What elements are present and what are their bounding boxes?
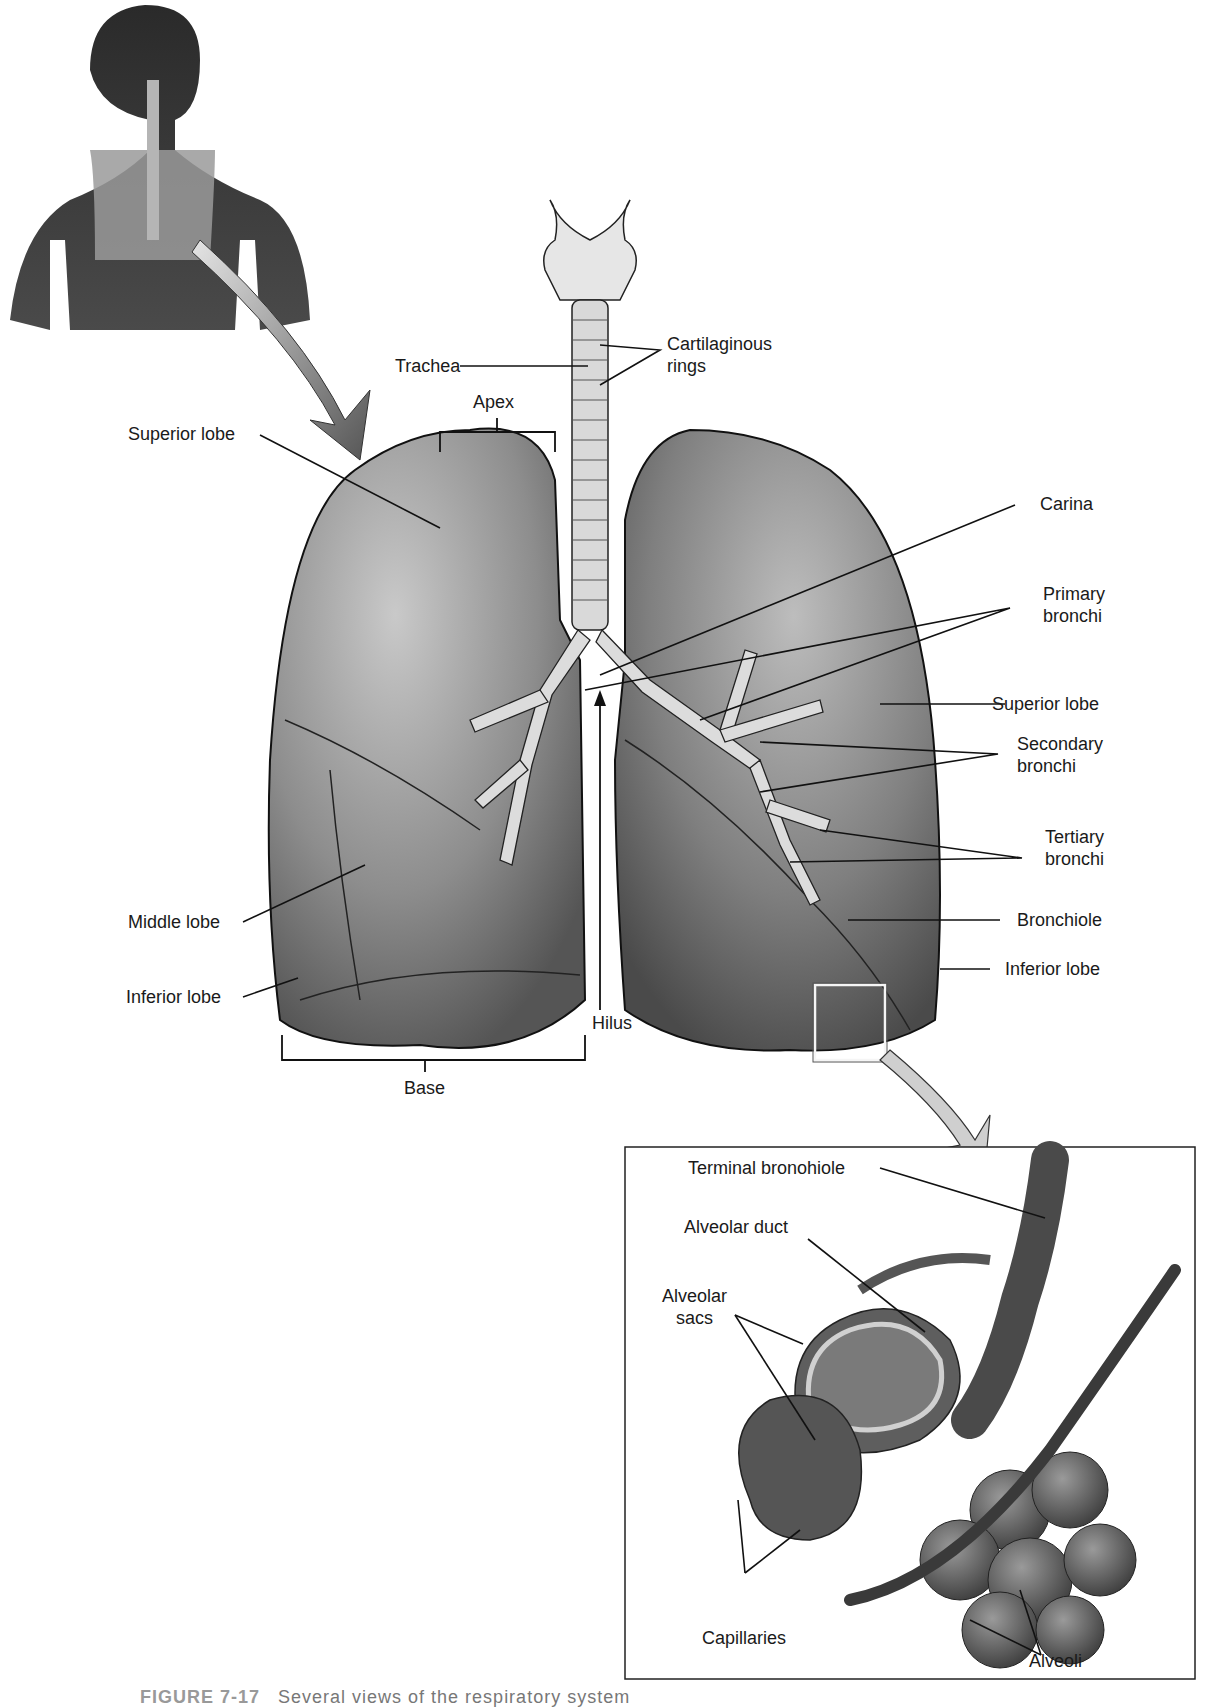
label-inferior-lobe-right: Inferior lobe bbox=[1005, 958, 1100, 980]
label-apex: Apex bbox=[473, 391, 514, 413]
left-lung-icon bbox=[615, 430, 940, 1051]
label-hilus: Hilus bbox=[592, 1012, 632, 1034]
label-tertiary-bronchi: Tertiary bronchi bbox=[1045, 826, 1104, 870]
label-capillaries: Capillaries bbox=[702, 1627, 786, 1649]
label-primary-bronchi: Primary bronchi bbox=[1043, 583, 1105, 627]
label-superior-lobe-right: Superior lobe bbox=[992, 693, 1099, 715]
label-alveolar-duct: Alveolar duct bbox=[684, 1216, 788, 1238]
label-middle-lobe: Middle lobe bbox=[128, 911, 220, 933]
label-cartilaginous-rings: Cartilaginous rings bbox=[667, 333, 772, 377]
label-bronchiole: Bronchiole bbox=[1017, 909, 1102, 931]
label-carina: Carina bbox=[1040, 493, 1093, 515]
label-trachea: Trachea bbox=[395, 355, 460, 377]
label-inferior-lobe-left: Inferior lobe bbox=[126, 986, 221, 1008]
label-alveoli: Alveoli bbox=[1029, 1650, 1082, 1672]
label-secondary-bronchi: Secondary bronchi bbox=[1017, 733, 1103, 777]
larynx-icon bbox=[544, 200, 637, 300]
label-base: Base bbox=[404, 1077, 445, 1099]
torso-thumbnail bbox=[10, 5, 310, 330]
figure-number: FIGURE 7-17 bbox=[140, 1687, 260, 1707]
label-terminal-bronchiole: Terminal bronohiole bbox=[688, 1157, 845, 1179]
label-alveolar-sacs: Alveolar sacs bbox=[662, 1285, 727, 1329]
label-superior-lobe-left: Superior lobe bbox=[128, 423, 235, 445]
figure-caption: FIGURE 7-17Several views of the respirat… bbox=[140, 1687, 630, 1708]
figure-caption-text: Several views of the respiratory system bbox=[278, 1687, 630, 1707]
